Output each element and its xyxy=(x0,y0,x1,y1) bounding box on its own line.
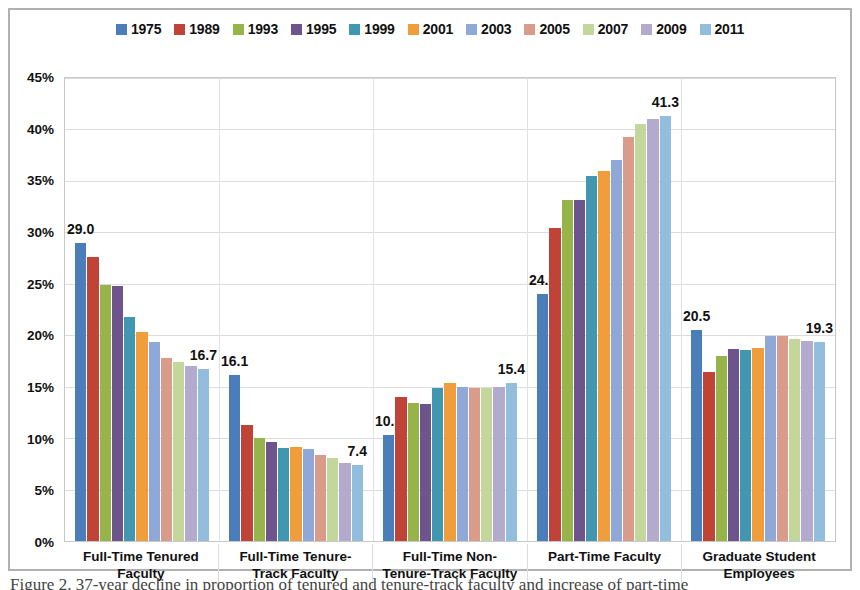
bar-2009[interactable] xyxy=(647,78,658,541)
bar-1993[interactable] xyxy=(254,78,265,541)
legend-swatch-icon xyxy=(641,24,652,35)
chart-legend: 1975198919931995199920012003200520072009… xyxy=(10,22,850,36)
bar-2007[interactable] xyxy=(635,78,646,541)
bar-1989[interactable] xyxy=(549,78,560,541)
bar-group: 16.17.4 xyxy=(219,78,373,541)
bar-fill xyxy=(457,387,468,541)
bar-2003[interactable] xyxy=(303,78,314,541)
legend-label: 1989 xyxy=(189,22,219,36)
bar-2011[interactable]: 41.3 xyxy=(660,78,671,541)
bar-2001[interactable] xyxy=(290,78,301,541)
legend-item-1995[interactable]: 1995 xyxy=(291,22,336,36)
bar-2005[interactable] xyxy=(777,78,788,541)
bar-2001[interactable] xyxy=(136,78,147,541)
bar-fill xyxy=(635,124,646,541)
legend-item-1989[interactable]: 1989 xyxy=(174,22,219,36)
bar-2009[interactable] xyxy=(801,78,812,541)
legend-label: 2011 xyxy=(715,22,745,36)
bar-fill xyxy=(562,200,573,541)
legend-item-2005[interactable]: 2005 xyxy=(524,22,569,36)
y-axis: 45%40%35%30%25%20%15%10%5%0% xyxy=(10,77,60,542)
bar-2007[interactable] xyxy=(173,78,184,541)
legend-item-1999[interactable]: 1999 xyxy=(349,22,394,36)
bar-1975[interactable]: 20.5 xyxy=(691,78,702,541)
bar-1999[interactable] xyxy=(586,78,597,541)
bar-fill xyxy=(549,228,560,541)
bar-fill xyxy=(752,348,763,541)
bar-2003[interactable] xyxy=(149,78,160,541)
x-axis-category-line: Graduate Student xyxy=(682,549,836,566)
bar-1989[interactable] xyxy=(395,78,406,541)
plot-area: 29.016.716.17.410.315.424.041.320.519.3 xyxy=(64,77,836,542)
bar-fill xyxy=(185,366,196,541)
bar-fill xyxy=(660,116,671,541)
bar-2003[interactable] xyxy=(611,78,622,541)
bar-1995[interactable] xyxy=(112,78,123,541)
bar-1995[interactable] xyxy=(728,78,739,541)
bar-2005[interactable] xyxy=(161,78,172,541)
bar-1995[interactable] xyxy=(574,78,585,541)
bar-1993[interactable] xyxy=(100,78,111,541)
bar-1975[interactable]: 24.0 xyxy=(537,78,548,541)
legend-item-2011[interactable]: 2011 xyxy=(700,22,745,36)
bar-1989[interactable] xyxy=(87,78,98,541)
bar-1989[interactable] xyxy=(241,78,252,541)
bar-fill xyxy=(814,342,825,541)
bar-2009[interactable] xyxy=(493,78,504,541)
bar-1975[interactable]: 29.0 xyxy=(75,78,86,541)
bar-2007[interactable] xyxy=(789,78,800,541)
legend-item-2007[interactable]: 2007 xyxy=(583,22,628,36)
legend-item-1993[interactable]: 1993 xyxy=(233,22,278,36)
y-axis-tick-label: 30% xyxy=(27,224,54,239)
bar-fill xyxy=(481,388,492,541)
bar-2009[interactable] xyxy=(339,78,350,541)
bar-2001[interactable] xyxy=(444,78,455,541)
bar-1999[interactable] xyxy=(278,78,289,541)
bar-fill xyxy=(716,356,727,541)
bar-1995[interactable] xyxy=(266,78,277,541)
bar-1999[interactable] xyxy=(124,78,135,541)
y-axis-tick-label: 20% xyxy=(27,328,54,343)
bar-1993[interactable] xyxy=(716,78,727,541)
bar-fill xyxy=(777,336,788,541)
bar-fill xyxy=(691,330,702,541)
bar-2007[interactable] xyxy=(481,78,492,541)
bar-1995[interactable] xyxy=(420,78,431,541)
bar-1999[interactable] xyxy=(740,78,751,541)
bar-group: 10.315.4 xyxy=(373,78,527,541)
legend-item-1975[interactable]: 1975 xyxy=(116,22,161,36)
legend-item-2009[interactable]: 2009 xyxy=(641,22,686,36)
bar-2001[interactable] xyxy=(598,78,609,541)
y-axis-tick-label: 15% xyxy=(27,379,54,394)
bar-fill xyxy=(173,362,184,541)
bar-2011[interactable]: 7.4 xyxy=(352,78,363,541)
legend-swatch-icon xyxy=(700,24,711,35)
bar-value-label: 7.4 xyxy=(348,443,367,459)
bar-1975[interactable]: 16.1 xyxy=(229,78,240,541)
bar-2005[interactable] xyxy=(315,78,326,541)
bar-2001[interactable] xyxy=(752,78,763,541)
bar-2011[interactable]: 15.4 xyxy=(506,78,517,541)
bar-2009[interactable] xyxy=(185,78,196,541)
bar-2005[interactable] xyxy=(623,78,634,541)
bar-fill xyxy=(444,383,455,541)
bar-1999[interactable] xyxy=(432,78,443,541)
bar-fill xyxy=(112,286,123,541)
bar-2005[interactable] xyxy=(469,78,480,541)
bar-2011[interactable]: 19.3 xyxy=(814,78,825,541)
legend-swatch-icon xyxy=(291,24,302,35)
legend-item-2001[interactable]: 2001 xyxy=(408,22,453,36)
bar-fill xyxy=(229,375,240,541)
bar-1989[interactable] xyxy=(703,78,714,541)
bar-1975[interactable]: 10.3 xyxy=(383,78,394,541)
legend-item-2003[interactable]: 2003 xyxy=(466,22,511,36)
bar-1993[interactable] xyxy=(562,78,573,541)
bar-fill xyxy=(506,383,517,541)
bar-2007[interactable] xyxy=(327,78,338,541)
bar-2011[interactable]: 16.7 xyxy=(198,78,209,541)
bar-1993[interactable] xyxy=(408,78,419,541)
bar-2003[interactable] xyxy=(765,78,776,541)
legend-label: 1993 xyxy=(248,22,278,36)
bar-2003[interactable] xyxy=(457,78,468,541)
y-axis-tick-label: 45% xyxy=(27,70,54,85)
